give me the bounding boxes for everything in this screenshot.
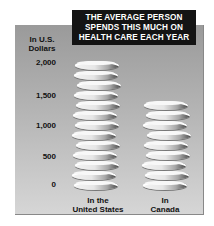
coin-icon <box>76 141 120 150</box>
coin-icon <box>144 101 188 110</box>
coin-icon <box>75 161 119 170</box>
y-axis-label: In U.S. Dollars <box>22 35 62 53</box>
y-tick-1500: 1,500 <box>22 91 56 100</box>
coin-icon <box>142 161 186 170</box>
y-tick-500: 500 <box>22 152 56 161</box>
y-axis-label-line-1: In U.S. <box>22 35 62 44</box>
coin-icon <box>74 71 118 80</box>
bar-canada <box>142 95 192 190</box>
chart-title: THE AVERAGE PERSON SPENDS THIS MUCH ON H… <box>72 10 196 45</box>
coin-icon <box>72 171 116 180</box>
y-tick-1000: 1,000 <box>22 121 56 130</box>
coin-icon <box>74 91 118 100</box>
coin-icon <box>146 111 190 120</box>
coin-icon <box>73 111 117 120</box>
x-label-line: In <box>140 196 190 205</box>
coin-icon <box>145 171 189 180</box>
coin-icon <box>144 141 188 150</box>
coin-icon <box>146 151 190 160</box>
coin-icon <box>147 131 191 140</box>
coin-icon <box>75 61 119 70</box>
coin-icon <box>75 121 119 130</box>
coin-icon <box>77 81 121 90</box>
x-label-canada: In Canada <box>140 196 190 214</box>
coin-icon <box>74 181 118 190</box>
x-label-line: Canada <box>140 205 190 214</box>
bar-united-states <box>72 58 122 190</box>
x-label-united-states: In the United States <box>66 196 130 214</box>
x-label-line: In the <box>66 196 130 205</box>
y-axis-label-line-2: Dollars <box>22 44 62 53</box>
y-tick-2000: 2,000 <box>22 58 56 67</box>
y-tick-0: 0 <box>22 180 56 189</box>
coin-icon <box>143 121 187 130</box>
x-label-line: United States <box>66 205 130 214</box>
title-line-1: THE AVERAGE PERSON <box>72 13 196 23</box>
title-line-2: SPENDS THIS MUCH ON <box>72 23 196 33</box>
title-line-3: HEALTH CARE EACH YEAR <box>72 33 196 43</box>
coin-icon <box>143 181 187 190</box>
coin-icon <box>72 131 116 140</box>
coin-icon <box>73 151 117 160</box>
coin-icon <box>76 101 120 110</box>
